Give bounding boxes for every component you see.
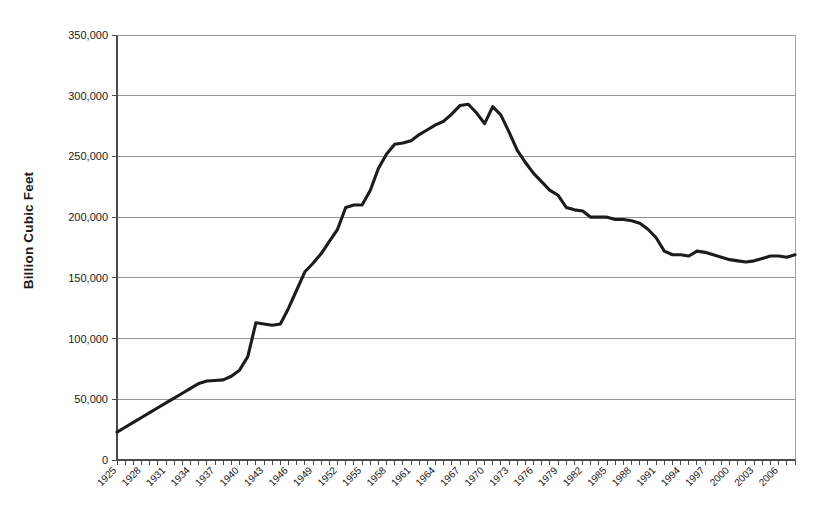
x-tick-label: 1928 <box>119 464 143 488</box>
y-tick-label: 100,000 <box>68 333 108 345</box>
x-axis-tick-labels: 1925192819311934193719401943194619491952… <box>95 464 780 488</box>
x-tick-label: 1955 <box>340 464 364 488</box>
x-tick-label: 2000 <box>708 464 732 488</box>
y-tick-label: 200,000 <box>68 211 108 223</box>
y-tick-label: 0 <box>102 454 108 466</box>
y-tick-label: 50,000 <box>74 393 108 405</box>
x-tick-label: 2003 <box>732 464 756 488</box>
x-tick-label: 1985 <box>585 464 609 488</box>
x-tick-label: 1982 <box>561 464 585 488</box>
y-axis-tick-labels: 050,000100,000150,000200,000250,000300,0… <box>68 29 117 466</box>
x-tick-label: 1946 <box>266 464 290 488</box>
x-tick-label: 1952 <box>315 464 339 488</box>
x-tick-label: 1973 <box>487 464 511 488</box>
x-tick-label: 1943 <box>242 464 266 488</box>
x-tick-label: 1991 <box>634 464 658 488</box>
x-tick-label: 1940 <box>217 464 241 488</box>
y-tick-label: 150,000 <box>68 272 108 284</box>
x-tick-label: 1934 <box>168 464 192 488</box>
x-tick-label: 1937 <box>193 464 217 488</box>
x-tick-label: 1976 <box>512 464 536 488</box>
x-tick-label: 1931 <box>144 464 168 488</box>
x-tick-label: 1967 <box>438 464 462 488</box>
x-axis-ticks <box>117 460 795 465</box>
line-chart: 050,000100,000150,000200,000250,000300,0… <box>0 0 833 516</box>
data-series <box>117 104 795 432</box>
y-tick-label: 300,000 <box>68 90 108 102</box>
x-tick-label: 1970 <box>462 464 486 488</box>
gridlines <box>117 35 795 399</box>
x-tick-label: 1988 <box>610 464 634 488</box>
x-tick-label: 1958 <box>364 464 388 488</box>
x-tick-label: 2006 <box>757 464 781 488</box>
x-tick-label: 1994 <box>659 464 683 488</box>
x-tick-label: 1949 <box>291 464 315 488</box>
x-tick-label: 1964 <box>413 464 437 488</box>
y-tick-label: 350,000 <box>68 29 108 41</box>
y-tick-label: 250,000 <box>68 150 108 162</box>
chart-container: Billion Cubic Feet 050,000100,000150,000… <box>0 0 833 516</box>
x-tick-label: 1925 <box>95 464 119 488</box>
x-tick-label: 1997 <box>683 464 707 488</box>
plot-frame <box>117 35 795 460</box>
x-tick-label: 1979 <box>536 464 560 488</box>
x-tick-label: 1961 <box>389 464 413 488</box>
data-line-series <box>117 104 795 432</box>
